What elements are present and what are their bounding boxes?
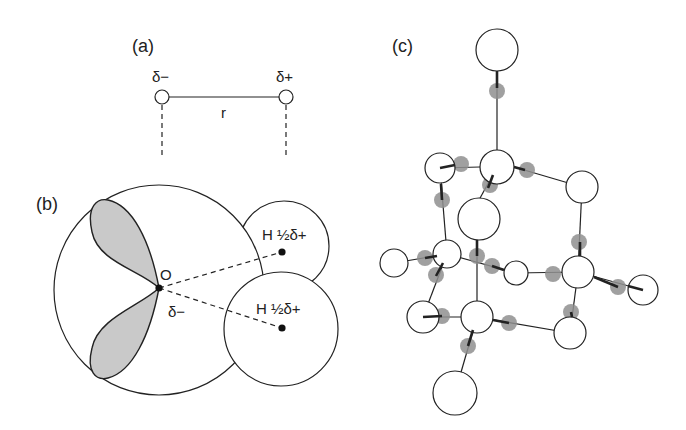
hydrogen-lower-label: H ½δ+ [256,300,301,317]
atom-middle [458,198,500,240]
ice-lattice-atoms [380,29,658,415]
panel-a-label: (a) [132,36,154,56]
distance-label: r [221,104,226,121]
atom-upper-right [566,171,598,203]
atom-upper-center [480,150,514,184]
ice-lattice-bonds [394,71,643,393]
atom-bottom [433,371,477,415]
negative-pole-atom [155,90,169,104]
oxygen-charge-label: δ− [168,303,185,320]
negative-charge-label: δ− [152,68,169,85]
lone-pair-dots [417,83,626,354]
hydrogen-nucleus-upper [278,248,285,255]
panel-b-label: (b) [36,194,58,214]
panel-c-label: (c) [392,36,413,56]
panel-a: (a) δ− δ+ r [132,36,293,156]
atom-lower-right [554,317,586,349]
covalent-bond-stubs [423,71,643,346]
hydrogen-upper-label: H ½δ+ [262,226,307,243]
atom-mid-right [562,256,594,288]
atom-lower-center [461,301,493,333]
positive-charge-label: δ+ [276,68,293,85]
oxygen-nucleus [155,284,162,291]
panel-c: (c) [380,29,658,415]
hydrogen-nucleus-lower [278,324,285,331]
oxygen-label: O [160,266,172,283]
atom-mid-left [433,240,461,268]
atom-top [476,29,518,71]
panel-b: (b) O δ− H ½δ+ H ½δ+ [36,185,338,395]
atom-mid-small [504,261,528,285]
atom-far-left [380,249,408,277]
positive-pole-atom [279,90,293,104]
water-dipole-figure: (a) δ− δ+ r (b) O δ− H ½δ+ H ½δ+ (c) [0,0,686,430]
